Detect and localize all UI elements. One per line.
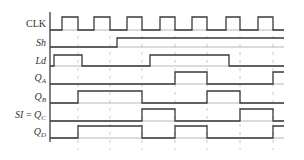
- clk-waveform: [50, 17, 284, 30]
- qa-label: QA: [34, 72, 46, 85]
- timing-diagram: CLKShLdQAQBSI = QCQD: [0, 0, 304, 160]
- qb-waveform: [50, 91, 284, 103]
- waveforms: [50, 17, 284, 138]
- sh-waveform: [50, 38, 284, 47]
- ld-waveform: [50, 55, 284, 66]
- ld-label: Ld: [34, 55, 47, 66]
- qc-label: SI = QC: [15, 109, 46, 122]
- signal-labels: CLKShLdQAQBSI = QCQD: [15, 18, 47, 140]
- clk-label: CLK: [26, 18, 47, 29]
- qa-waveform: [50, 72, 284, 84]
- qd-label: QD: [34, 126, 46, 139]
- qd-waveform: [50, 126, 284, 138]
- qb-label: QB: [34, 91, 46, 104]
- sh-label: Sh: [36, 37, 46, 48]
- qc-waveform: [50, 109, 284, 121]
